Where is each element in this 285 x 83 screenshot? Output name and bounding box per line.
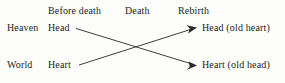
heart-to-head-arrow <box>79 25 197 65</box>
rebirth-transposition-diagram: Before death Death Rebirth Heaven World … <box>0 0 285 83</box>
crossing-arrows-group <box>0 0 285 83</box>
head-to-heart-arrow <box>76 29 197 71</box>
